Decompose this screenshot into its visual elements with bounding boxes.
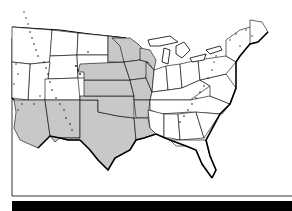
bottom-black-bar [12,201,292,211]
us-map [0,0,292,211]
